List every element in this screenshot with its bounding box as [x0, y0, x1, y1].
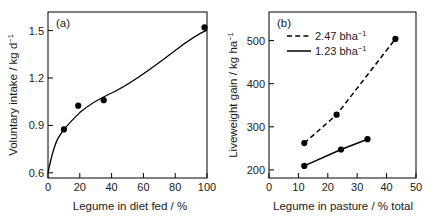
panel-a-y-ticklabels: 1.5 1.2 0.9 0.6	[29, 25, 44, 179]
panel-a-point-2	[101, 97, 107, 103]
panel-b-plot: (b) 2.47 bha−1 1.23 bha−1 500	[217, 0, 434, 218]
panel-a-tag: (a)	[56, 17, 70, 29]
legend-label-2-47: 2.47 bha−1	[315, 29, 366, 42]
panel-a-point-0	[61, 126, 67, 132]
panel-b: (b) 2.47 bha−1 1.23 bha−1 500	[217, 0, 434, 218]
panel-b-solid-point-2	[364, 136, 370, 142]
panel-a-x-ticks	[48, 173, 207, 178]
panel-b-xticklabel-2: 20	[322, 181, 334, 193]
figure-container: (a) 1.5 1.2 0.9 0.6	[0, 0, 434, 218]
panel-b-xticklabel-0: 0	[266, 181, 272, 193]
panel-b-tag: (b)	[277, 17, 291, 29]
panel-a-xticklabel-0: 0	[45, 181, 51, 193]
panel-b-y-ticklabels: 500 400 300 200	[247, 35, 265, 176]
panel-a-ylabel: Voluntary intake / kg d−1	[6, 34, 19, 156]
panel-a: (a) 1.5 1.2 0.9 0.6	[0, 0, 217, 218]
panel-b-dashed-point-2	[392, 36, 398, 42]
panel-b-y-ticks	[269, 41, 274, 170]
panel-a-xlabel: Legume in diet fed / %	[73, 200, 187, 212]
panel-a-xticklabel-1: 20	[74, 181, 86, 193]
panel-a-x-ticklabels: 0 20 40 60 80 100	[45, 181, 216, 193]
panel-b-x-ticks	[269, 173, 416, 178]
panel-a-yticklabel-0: 0.6	[29, 167, 44, 179]
panel-a-xticklabel-5: 100	[198, 181, 216, 193]
panel-b-legend: 2.47 bha−1 1.23 bha−1	[287, 29, 366, 57]
panel-b-yticklabel-1: 300	[247, 121, 265, 133]
panel-b-xticklabel-4: 40	[380, 181, 392, 193]
panel-b-ylabel: Liveweight gain / kg ha−1	[226, 32, 239, 158]
panel-b-dashed-point-0	[301, 140, 307, 146]
panel-b-xticklabel-5: 50	[410, 181, 422, 193]
panel-a-xticklabel-4: 80	[169, 181, 181, 193]
panel-b-xticklabel-1: 10	[292, 181, 304, 193]
panel-b-solid-point-0	[301, 163, 307, 169]
panel-b-xticklabel-3: 30	[351, 181, 363, 193]
panel-a-xticklabel-2: 40	[105, 181, 117, 193]
panel-b-x-ticklabels: 0 10 20 30 40 50	[266, 181, 422, 193]
panel-a-data-points	[61, 24, 208, 132]
panel-a-yticklabel-2: 1.2	[29, 72, 44, 84]
panel-b-dashed-point-1	[334, 112, 340, 118]
panel-b-series-solid	[304, 139, 367, 166]
panel-a-plot: (a) 1.5 1.2 0.9 0.6	[0, 0, 217, 218]
panel-b-yticklabel-2: 400	[247, 78, 265, 90]
panel-a-fit-curve	[48, 30, 207, 173]
panel-b-yticklabel-3: 500	[247, 35, 265, 47]
panel-b-yticklabel-0: 200	[247, 164, 265, 176]
panel-a-y-ticks	[48, 31, 53, 173]
panel-b-solid-point-1	[338, 146, 344, 152]
panel-a-frame	[48, 12, 207, 178]
panel-a-xticklabel-3: 60	[137, 181, 149, 193]
panel-a-yticklabel-1: 0.9	[29, 119, 44, 131]
panel-a-yticklabel-3: 1.5	[29, 25, 44, 37]
panel-a-point-1	[75, 103, 81, 109]
panel-a-point-3	[201, 24, 207, 30]
legend-label-1-23: 1.23 bha−1	[315, 44, 366, 57]
panel-b-xlabel: Legume in pasture / % total	[273, 200, 413, 212]
